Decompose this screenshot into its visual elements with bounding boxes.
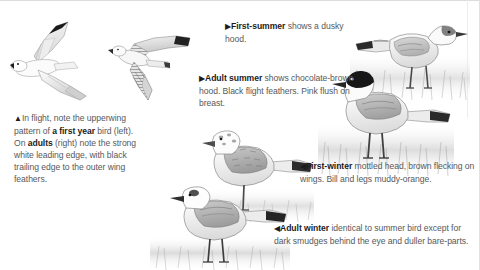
caption-in-flight: ▲In flight, note the upperwing pattern o…	[14, 112, 142, 186]
caption-adult-winter-bold: Adult winter	[280, 223, 329, 233]
caption-adult-summer: ▶Adult summer shows chocolate-brown hood…	[199, 72, 359, 109]
caption-in-flight-bold-2: adults	[28, 138, 53, 148]
caption-first-winter-bold: First-winter	[306, 161, 352, 171]
page-top-border	[0, 0, 480, 1]
marker-up-icon: ▲	[14, 114, 22, 123]
gull-in-flight-adult	[8, 14, 112, 106]
caption-adult-winter: ◀Adult winter identical to summer bird e…	[274, 222, 477, 247]
caption-first-winter: ◀First-winter mottled head, brown flecki…	[300, 160, 478, 185]
caption-first-summer: ▶First-summer shows a dusky hood.	[225, 20, 365, 45]
gull-in-flight-first-year	[104, 20, 194, 106]
caption-in-flight-bold-1: a first year	[52, 126, 95, 136]
caption-first-summer-bold: First-summer	[231, 21, 285, 31]
gull-standing-adult-winter	[150, 186, 290, 270]
field-guide-page: ▲In flight, note the upperwing pattern o…	[0, 0, 480, 270]
caption-adult-summer-bold: Adult summer	[205, 73, 262, 83]
